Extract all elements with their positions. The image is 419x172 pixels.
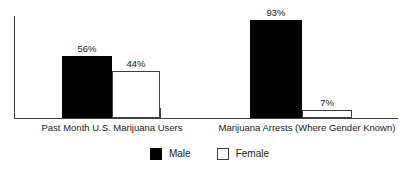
bar-female-marijuana-arrests [302,110,352,118]
value-label-male-past-month-users: 56% [62,43,112,54]
bar-male-marijuana-arrests [250,20,302,118]
value-label-male-marijuana-arrests: 93% [250,7,302,18]
value-label-female-past-month-users: 44% [112,58,160,69]
chart-legend: Male Female [0,148,419,160]
legend-label-male: Male [169,148,191,160]
value-label-female-marijuana-arrests: 7% [302,97,352,108]
category-label-past-month-users: Past Month U.S. Marijuana Users [9,122,215,134]
filled-square-swatch-icon [150,148,162,160]
legend-label-female: Female [236,148,269,160]
y-axis-line [14,16,15,119]
legend-item-male: Male [150,148,191,160]
bar-male-past-month-users [62,56,112,118]
category-label-marijuana-arrests: Marijuana Arrests (Where Gender Known) [195,122,419,134]
x-axis-baseline [14,118,398,119]
bar-chart: 56% 44% Past Month U.S. Marijuana Users … [0,0,419,172]
category-separator-tick [160,108,161,118]
legend-item-female: Female [217,148,269,160]
bar-female-past-month-users [112,71,160,118]
outlined-square-swatch-icon [217,148,229,160]
